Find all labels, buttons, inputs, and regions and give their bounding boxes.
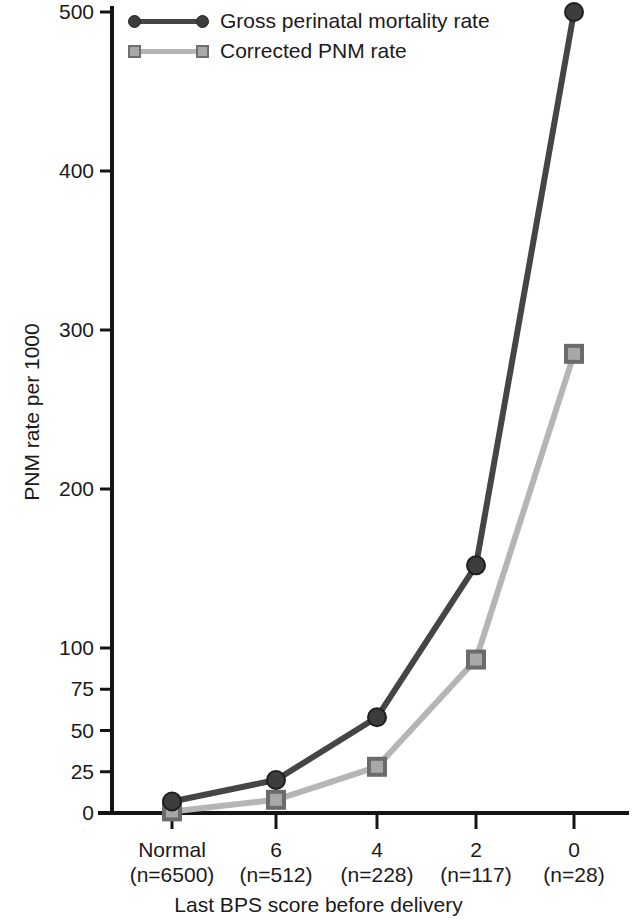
data-point-marker	[468, 652, 484, 668]
x-axis-sample-size: (n=28)	[499, 862, 637, 887]
y-axis-tick-label: 50	[71, 720, 94, 741]
y-axis-tick-label: 25	[71, 761, 94, 782]
chart-legend: Gross perinatal mortality rate Corrected…	[128, 6, 528, 66]
legend-label-gross: Gross perinatal mortality rate	[220, 9, 490, 33]
data-point-marker	[267, 771, 285, 789]
square-marker-icon	[128, 41, 210, 61]
legend-item-gross: Gross perinatal mortality rate	[128, 6, 528, 36]
legend-label-corrected: Corrected PNM rate	[220, 39, 407, 63]
y-axis-tick-label: 300	[59, 319, 94, 340]
pnm-rate-line-chart: 0255075100200300400500 Normal(n=6500)6(n…	[0, 0, 637, 921]
series-line-gross	[172, 12, 574, 802]
data-point-marker	[268, 792, 284, 808]
legend-item-corrected: Corrected PNM rate	[128, 36, 528, 66]
data-point-marker	[369, 759, 385, 775]
y-axis-tick-label: 100	[59, 637, 94, 658]
data-point-marker	[467, 556, 485, 574]
y-axis-tick-label: 75	[71, 678, 94, 699]
y-axis-tick-label: 400	[59, 160, 94, 181]
y-axis-tick-label: 200	[59, 478, 94, 499]
y-axis-tick-label: 500	[59, 1, 94, 22]
data-point-marker	[566, 346, 582, 362]
data-point-marker	[565, 3, 583, 21]
y-axis-tick-label: 0	[82, 802, 94, 823]
x-axis-title: Last BPS score before delivery	[0, 893, 637, 917]
x-axis-category: 0	[499, 837, 637, 862]
x-axis-tick-label: 0(n=28)	[499, 837, 637, 887]
data-point-marker	[368, 708, 386, 726]
data-point-marker	[163, 792, 181, 810]
chart-plot-area	[0, 0, 637, 921]
circle-marker-icon	[128, 11, 210, 31]
y-axis-title: PNM rate per 1000	[20, 302, 44, 522]
series-line-corrected	[172, 354, 574, 812]
